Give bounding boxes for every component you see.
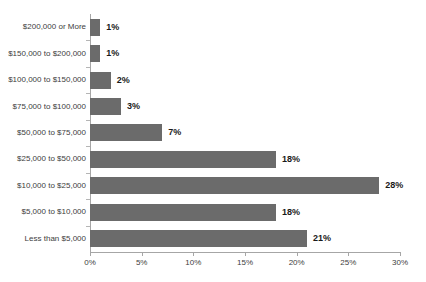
bar-row: 18%: [90, 146, 400, 172]
x-axis-tick: [348, 252, 349, 256]
bar-value-label: 18%: [282, 155, 300, 164]
bar-value-label: 21%: [313, 234, 331, 243]
bar-row: 3%: [90, 93, 400, 119]
bar-row: 18%: [90, 199, 400, 225]
category-label-row: $50,000 to $75,000: [0, 120, 86, 146]
bar: [90, 204, 276, 221]
y-axis-tick: [86, 173, 90, 174]
category-label-row: $200,000 or More: [0, 14, 86, 40]
category-axis-labels: $200,000 or More$150,000 to $200,000$100…: [0, 14, 86, 252]
category-label: $10,000 to $25,000: [17, 182, 86, 190]
x-axis-tick: [297, 252, 298, 256]
bar: [90, 19, 100, 36]
category-label-row: $100,000 to $150,000: [0, 67, 86, 93]
category-label: $50,000 to $75,000: [17, 129, 86, 137]
y-axis-tick: [86, 93, 90, 94]
y-axis-tick: [86, 40, 90, 41]
y-axis-tick: [86, 120, 90, 121]
category-label: $5,000 to $10,000: [21, 208, 86, 216]
y-axis-tick: [86, 199, 90, 200]
x-axis-tick-label: 20%: [289, 259, 305, 267]
category-label-row: $75,000 to $100,000: [0, 93, 86, 119]
category-label-row: $25,000 to $50,000: [0, 146, 86, 172]
x-axis-tick-label: 10%: [185, 259, 201, 267]
bar-row: 7%: [90, 120, 400, 146]
bar: [90, 124, 162, 141]
bar: [90, 45, 100, 62]
x-axis-tick-label: 5%: [136, 259, 148, 267]
bar: [90, 98, 121, 115]
y-axis-tick: [86, 226, 90, 227]
bar-value-label: 1%: [106, 23, 119, 32]
x-axis-tick-label: 0%: [84, 259, 96, 267]
bar-row: 1%: [90, 40, 400, 66]
category-label: $200,000 or More: [23, 23, 86, 31]
bar: [90, 177, 379, 194]
x-axis-tick-label: 30%: [392, 259, 408, 267]
x-axis-tick: [193, 252, 194, 256]
bar-value-label: 2%: [117, 76, 130, 85]
bar-chart: $200,000 or More$150,000 to $200,000$100…: [0, 0, 426, 282]
x-axis-tick: [400, 252, 401, 256]
bar-value-label: 3%: [127, 102, 140, 111]
bar: [90, 151, 276, 168]
category-label: $100,000 to $150,000: [8, 76, 86, 84]
bar-row: 28%: [90, 173, 400, 199]
category-label: Less than $5,000: [25, 235, 86, 243]
category-label-row: $150,000 to $200,000: [0, 40, 86, 66]
bar: [90, 72, 111, 89]
x-axis-tick: [90, 252, 91, 256]
bar-row: 21%: [90, 226, 400, 252]
bar-row: 1%: [90, 14, 400, 40]
bar-value-label: 7%: [168, 128, 181, 137]
category-label: $25,000 to $50,000: [17, 155, 86, 163]
bar-value-label: 18%: [282, 208, 300, 217]
x-axis-tick-label: 15%: [237, 259, 253, 267]
bar-value-label: 28%: [385, 181, 403, 190]
plot-area: 1%1%2%3%7%18%28%18%21%: [90, 14, 400, 252]
category-label-row: $10,000 to $25,000: [0, 173, 86, 199]
category-label: $75,000 to $100,000: [13, 103, 86, 111]
y-axis-tick: [86, 146, 90, 147]
category-label: $150,000 to $200,000: [8, 50, 86, 58]
bar-value-label: 1%: [106, 49, 119, 58]
category-label-row: Less than $5,000: [0, 226, 86, 252]
x-axis-tick: [142, 252, 143, 256]
x-axis-tick: [245, 252, 246, 256]
x-axis-tick-label: 25%: [340, 259, 356, 267]
category-label-row: $5,000 to $10,000: [0, 199, 86, 225]
bar: [90, 230, 307, 247]
bar-row: 2%: [90, 67, 400, 93]
y-axis-tick: [86, 67, 90, 68]
